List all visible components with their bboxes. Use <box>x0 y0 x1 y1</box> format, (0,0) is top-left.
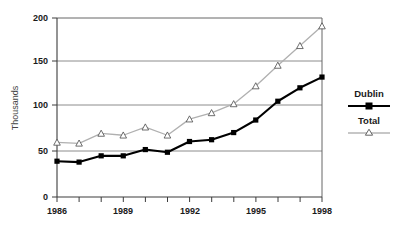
y-axis-label-0: 0 <box>43 192 48 202</box>
legend-label-dublin: Dublin <box>354 88 384 99</box>
data-point-marker <box>253 117 258 122</box>
data-point-marker <box>231 130 236 135</box>
x-axis-label-1989: 1989 <box>113 206 133 216</box>
data-point-marker <box>121 153 126 158</box>
y-axis-label-100: 100 <box>33 100 48 110</box>
x-axis-label-1986: 1986 <box>47 206 67 216</box>
y-axis-label-200: 200 <box>33 13 48 23</box>
y-axis-labels: 200 150 100 50 0 <box>33 13 48 202</box>
triangle-marker-icon <box>365 129 372 135</box>
x-axis-ticks <box>57 197 322 202</box>
plot-area-background <box>57 18 322 197</box>
legend-swatch-total <box>348 129 390 135</box>
data-point-marker <box>76 160 81 165</box>
x-axis-labels: 1986 1989 1992 1995 1998 <box>47 206 332 216</box>
data-point-marker <box>54 159 59 164</box>
y-axis-label-50: 50 <box>38 146 48 156</box>
legend: Dublin Total <box>348 88 390 135</box>
y-axis-ticks <box>52 18 57 197</box>
data-point-marker <box>187 139 192 144</box>
line-chart: 200 150 100 50 0 Thousands 1986 <box>0 0 398 235</box>
legend-swatch-dublin <box>348 103 390 110</box>
data-point-marker <box>143 147 148 152</box>
x-axis-label-1992: 1992 <box>180 206 200 216</box>
x-axis-label-1995: 1995 <box>246 206 266 216</box>
data-point-marker <box>165 150 170 155</box>
data-point-marker <box>99 153 104 158</box>
data-point-marker <box>319 74 324 79</box>
chart-canvas: 200 150 100 50 0 Thousands 1986 <box>0 0 398 235</box>
square-marker-icon <box>366 103 373 110</box>
x-axis-label-1998: 1998 <box>312 206 332 216</box>
legend-label-total: Total <box>358 115 380 126</box>
data-point-marker <box>209 137 214 142</box>
data-point-marker <box>275 99 280 104</box>
y-axis-label-150: 150 <box>33 56 48 66</box>
y-axis-title: Thousands <box>10 85 20 130</box>
data-point-marker <box>297 85 302 90</box>
